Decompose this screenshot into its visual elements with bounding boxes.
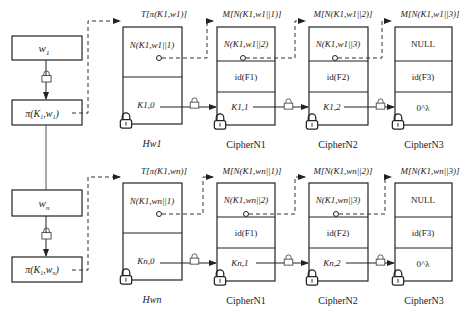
encrypt-lock-icon	[190, 98, 199, 108]
prf-box-w1: π(K1,w1)	[12, 100, 82, 125]
svg-text:id(F2): id(F2)	[327, 228, 350, 238]
svg-text:CipherN2: CipherN2	[318, 295, 357, 306]
svg-text:T[π(K1,wn)]: T[π(K1,wn)]	[141, 166, 187, 176]
svg-text:K1,2: K1,2	[322, 102, 341, 112]
row-wn: wn π(K1,wn) T[π(K1,wn)] N(K1,wn||1) Kn,0…	[12, 166, 460, 306]
svg-text:id(F1): id(F1)	[235, 72, 258, 82]
encrypt-lock-icon	[284, 255, 293, 265]
svg-text:NULL: NULL	[411, 39, 435, 49]
keyword-box-wn: wn	[12, 190, 82, 216]
svg-text:M[N(K1,wn||1)]: M[N(K1,wn||1)]	[221, 166, 282, 176]
encrypt-lock-icon	[376, 255, 385, 265]
keyword-box-w1: w1	[12, 36, 82, 60]
prf-box-wn: π(K1,wn)	[12, 257, 82, 282]
encrypt-lock-icon	[190, 254, 199, 264]
cipher-node-3-wn: M[N(K1,wn||3)] NULL id(F3) 0^λ CipherN3	[392, 166, 460, 306]
svg-text:N(K1,wn||3): N(K1,wn||3)	[315, 195, 361, 205]
svg-text:N(K1,wn||1): N(K1,wn||1)	[129, 196, 175, 206]
svg-text:Hw1: Hw1	[142, 138, 162, 149]
svg-text:Kn,1: Kn,1	[230, 258, 248, 268]
svg-text:CipherN1: CipherN1	[226, 139, 265, 150]
svg-text:N(K1,w1||3): N(K1,w1||3)	[315, 39, 361, 49]
svg-text:id(F3): id(F3)	[412, 228, 435, 238]
svg-text:Hwn: Hwn	[142, 294, 162, 305]
svg-text:Kn,0: Kn,0	[136, 256, 155, 266]
encrypt-lock-icon	[376, 99, 385, 109]
svg-text:M[N(K1,w1||3)]: M[N(K1,w1||3)]	[399, 9, 460, 19]
header-node-w1: T[π(K1,w1)] N(K1,w1||1) K1,0 Hw1	[120, 9, 187, 149]
svg-text:0^λ: 0^λ	[416, 259, 430, 269]
header-node-wn: T[π(K1,wn)] N(K1,wn||1) Kn,0 Hwn	[120, 166, 187, 305]
svg-text:N(K1,w1||1): N(K1,w1||1)	[129, 40, 175, 50]
cipher-node-2-w1: M[N(K1,w1||2)] N(K1,w1||3) id(F2) K1,2 C…	[306, 9, 373, 150]
svg-text:id(F2): id(F2)	[327, 72, 350, 82]
cipher-node-3-w1: M[N(K1,w1||3)] NULL id(F3) 0^λ CipherN3	[392, 9, 460, 150]
searchable-encryption-index-diagram: w1 π(K1,w1) T[π(K1,w1)] N(K1,w1||1) K1,0…	[0, 0, 466, 315]
row-w1: w1 π(K1,w1) T[π(K1,w1)] N(K1,w1||1) K1,0…	[12, 9, 460, 150]
svg-text:CipherN1: CipherN1	[226, 295, 265, 306]
svg-text:M[N(K1,wn||2)]: M[N(K1,wn||2)]	[312, 166, 373, 176]
svg-text:id(F3): id(F3)	[412, 72, 435, 82]
svg-text:N(K1,w1||2): N(K1,w1||2)	[223, 39, 269, 49]
svg-text:Kn,2: Kn,2	[322, 258, 341, 268]
svg-text:0^λ: 0^λ	[416, 103, 430, 113]
svg-text:CipherN3: CipherN3	[404, 295, 443, 306]
cipher-node-2-wn: M[N(K1,wn||2)] N(K1,wn||3) id(F2) Kn,2 C…	[306, 166, 373, 306]
encrypt-lock-icon	[284, 99, 293, 109]
cipher-node-1-w1: M[N(K1,w1||1)] N(K1,w1||2) id(F1) K1,1 C…	[214, 9, 282, 150]
svg-text:NULL: NULL	[411, 195, 435, 205]
svg-text:M[N(K1,w1||1)]: M[N(K1,w1||1)]	[221, 9, 282, 19]
svg-text:K1,1: K1,1	[230, 102, 248, 112]
svg-text:M[N(K1,wn||3)]: M[N(K1,wn||3)]	[399, 166, 460, 176]
svg-text:N(K1,wn||2): N(K1,wn||2)	[223, 195, 269, 205]
svg-text:id(F1): id(F1)	[235, 228, 258, 238]
svg-text:K1,0: K1,0	[136, 100, 155, 110]
svg-text:M[N(K1,w1||2)]: M[N(K1,w1||2)]	[312, 9, 373, 19]
svg-text:CipherN2: CipherN2	[318, 139, 357, 150]
cipher-node-1-wn: M[N(K1,wn||1)] N(K1,wn||2) id(F1) Kn,1 C…	[214, 166, 282, 306]
svg-text:T[π(K1,w1)]: T[π(K1,w1)]	[141, 9, 187, 19]
svg-text:CipherN3: CipherN3	[404, 139, 443, 150]
